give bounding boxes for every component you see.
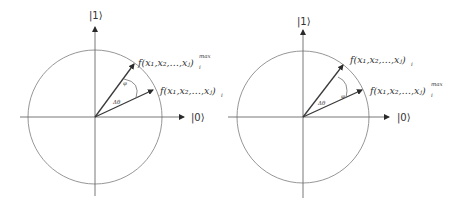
svg-text:i: i (221, 92, 223, 98)
max-vector-label: f(x₁,x₂,…,xⱼ) i max (137, 53, 211, 70)
current-vector (95, 90, 153, 117)
ket-one-label: |1⟩ (297, 16, 311, 28)
svg-text:i: i (431, 92, 433, 98)
arc-mark: φ (341, 93, 345, 100)
ket-zero-label: |0⟩ (191, 112, 205, 124)
svg-text:f(x₁,x₂,…,xⱼ): f(x₁,x₂,…,xⱼ) (137, 57, 194, 68)
max-vector (303, 90, 362, 117)
svg-text:i: i (411, 61, 413, 67)
svg-text:i: i (199, 64, 201, 70)
ket-one-label: |1⟩ (89, 10, 103, 22)
current-vector-label: f(x₁,x₂,…,xⱼ) i (349, 54, 413, 67)
ket-zero-label: |0⟩ (397, 112, 411, 124)
right-diagram: |1⟩ |0⟩ φ Δθ f(x₁,x₂,…,xⱼ) i f(x₁,x₂,…,x… (228, 16, 443, 198)
max-vector-label: f(x₁,x₂,…,xⱼ) i max (369, 81, 443, 98)
svg-text:f(x₁,x₂,…,xⱼ): f(x₁,x₂,…,xⱼ) (159, 85, 216, 96)
svg-text:max: max (431, 81, 443, 87)
current-vector (303, 65, 343, 117)
svg-text:f(x₁,x₂,…,xⱼ): f(x₁,x₂,…,xⱼ) (349, 54, 406, 65)
delta-theta-label: Δθ (112, 99, 121, 105)
current-vector-label: f(x₁,x₂,…,xⱼ) i (159, 85, 223, 98)
bloch-diagrams: |1⟩ |0⟩ φ Δθ f(x₁,x₂,…,xⱼ) i max f(x₁,x₂… (0, 0, 452, 210)
left-diagram: |1⟩ |0⟩ φ Δθ f(x₁,x₂,…,xⱼ) i max f(x₁,x₂… (20, 10, 223, 196)
max-vector (95, 64, 134, 117)
svg-text:max: max (199, 53, 211, 59)
delta-theta-label: Δθ (317, 100, 326, 106)
svg-text:f(x₁,x₂,…,xⱼ): f(x₁,x₂,…,xⱼ) (369, 85, 426, 96)
arc-mark: φ (123, 80, 127, 87)
